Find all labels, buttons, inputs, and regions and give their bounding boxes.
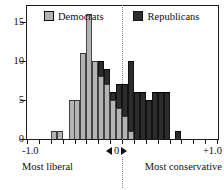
x-axis-tick xyxy=(193,140,194,144)
legend-item-democrats: Democrats xyxy=(44,11,103,22)
legend-item-republicans: Republicans xyxy=(133,11,199,22)
x-tick-label-left: -1.0 xyxy=(22,145,39,156)
x-axis-tick xyxy=(134,140,135,144)
caption-most-liberal: Most liberal xyxy=(22,161,73,172)
bars-layer xyxy=(27,6,217,139)
legend-label-democrats: Democrats xyxy=(58,11,103,22)
x-axis-tick xyxy=(39,140,40,144)
y-axis-tick-label: 0 xyxy=(6,134,24,144)
x-axis-tick xyxy=(217,140,218,144)
x-axis-tick xyxy=(122,140,123,144)
y-axis-tick-label: 5 xyxy=(6,95,24,105)
x-axis-tick xyxy=(170,140,171,144)
caption-most-conservative: Most conservative xyxy=(145,161,222,172)
x-tick-label-right: +1.0 xyxy=(203,145,222,156)
right-arrow-icon xyxy=(121,147,127,155)
x-axis-tick xyxy=(146,140,147,144)
x-axis-tick xyxy=(181,140,182,144)
x-axis-tick xyxy=(27,140,28,144)
histogram-bar-dem xyxy=(57,131,63,139)
histogram-bar-rep xyxy=(104,69,110,85)
x-axis-tick xyxy=(51,140,52,144)
legend-swatch-republicans-icon xyxy=(133,11,143,21)
y-axis-tick-label: 15 xyxy=(6,17,24,27)
x-zero-marker: 0 xyxy=(105,145,128,156)
x-axis-tick xyxy=(86,140,87,144)
y-axis-tick-label: 10 xyxy=(6,56,24,66)
x-zero-label: 0 xyxy=(114,145,119,156)
histogram-bar-rep xyxy=(175,131,181,139)
legend-swatch-democrats-icon xyxy=(44,11,54,21)
legend-label-republicans: Republicans xyxy=(147,11,199,22)
x-axis-tick xyxy=(110,140,111,144)
x-axis-tick xyxy=(63,140,64,144)
histogram-bar-rep xyxy=(164,92,170,139)
x-axis-tick xyxy=(75,140,76,144)
x-axis-tick xyxy=(98,140,99,144)
histogram-figure: Democrats Republicans 051015 -1.0 +1.0 0… xyxy=(0,0,224,190)
x-axis-tick xyxy=(205,140,206,144)
x-axis-tick xyxy=(158,140,159,144)
left-arrow-icon xyxy=(106,147,112,155)
chart-legend: Democrats Republicans xyxy=(44,8,219,24)
